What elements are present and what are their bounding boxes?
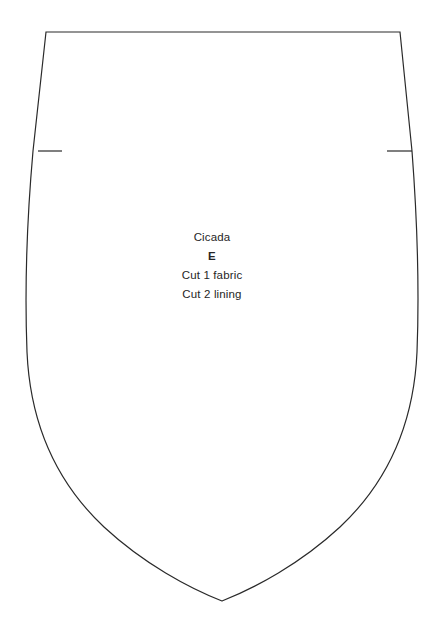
pattern-outline-path [26,32,418,601]
pattern-sheet: Cicada E Cut 1 fabric Cut 2 lining [0,0,440,629]
pattern-piece-outline-svg [0,0,440,629]
